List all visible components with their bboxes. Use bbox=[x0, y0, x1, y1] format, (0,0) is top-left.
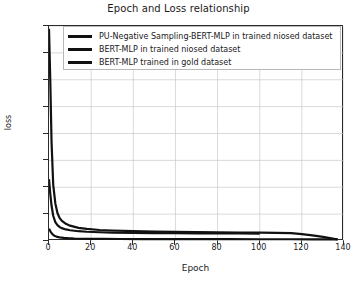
chart-legend: PU-Negative Sampling-BERT-MLP in trained… bbox=[63, 26, 341, 70]
legend-label: BERT-MLP trained in gold dataset bbox=[99, 58, 231, 67]
legend-swatch-icon bbox=[68, 35, 92, 38]
chart-figure: Epoch and Loss relationship loss 0500100… bbox=[0, 0, 357, 287]
legend-label: BERT-MLP in trained niosed dataset bbox=[99, 45, 240, 54]
chart-title: Epoch and Loss relationship bbox=[0, 3, 357, 14]
legend-item: PU-Negative Sampling-BERT-MLP in trained… bbox=[68, 30, 336, 43]
y-axis-label: loss bbox=[4, 103, 13, 143]
legend-label: PU-Negative Sampling-BERT-MLP in trained… bbox=[99, 32, 333, 41]
x-axis-label: Epoch bbox=[48, 263, 343, 273]
legend-item: BERT-MLP trained in gold dataset bbox=[68, 56, 336, 69]
legend-swatch-icon bbox=[68, 61, 92, 64]
legend-swatch-icon bbox=[68, 48, 92, 51]
legend-item: BERT-MLP in trained niosed dataset bbox=[68, 43, 336, 56]
